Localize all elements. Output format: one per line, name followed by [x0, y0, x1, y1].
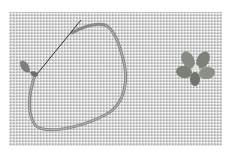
- flower-ornament: [175, 49, 216, 86]
- needle: [37, 20, 81, 74]
- photo-objects: [0, 0, 229, 157]
- leaf-ornament: [20, 61, 30, 73]
- hairpin-loop: [29, 24, 125, 130]
